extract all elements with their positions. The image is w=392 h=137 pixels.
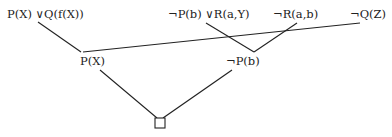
edge-r1-empty <box>100 70 157 118</box>
resolvent-r2: ¬P(b) <box>226 54 260 68</box>
edge-c4-r1 <box>83 23 360 52</box>
resolvent-r1: P(X) <box>80 54 105 68</box>
clause-c3: ¬R(a,b) <box>273 7 318 21</box>
edge-c1-r1 <box>38 22 81 52</box>
edge-r2-empty <box>163 70 232 118</box>
clause-c1: P(X) ∨Q(f(X)) <box>7 7 84 21</box>
clause-c4: ¬Q(Z) <box>350 7 386 21</box>
edge-c2-r2 <box>206 23 254 52</box>
resolution-tree: P(X) ∨Q(f(X)) ¬P(b) ∨R(a,Y) ¬R(a,b) ¬Q(Z… <box>0 0 392 137</box>
edge-c3-r2 <box>254 23 297 52</box>
clause-c2: ¬P(b) ∨R(a,Y) <box>168 7 250 21</box>
empty-clause-box <box>155 118 165 128</box>
